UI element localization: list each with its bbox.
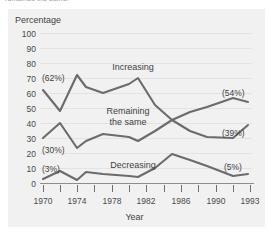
series-label-remaining-line1: Remaining (93, 106, 163, 116)
x-axis-line (40, 183, 254, 184)
x-axis-title: Year (0, 212, 269, 222)
x-tick-1986 (181, 185, 182, 192)
x-tick-1974 (77, 185, 78, 192)
annotation-3-percent: (3%) (42, 164, 60, 174)
x-label-1978: 1978 (103, 196, 122, 206)
x-tick-1970 (43, 185, 44, 192)
x-tick-1988 (198, 185, 199, 192)
annotation-39-percent: (39%) (222, 128, 245, 138)
x-tick-1992 (233, 185, 234, 192)
x-tick-1982 (146, 185, 147, 192)
x-tick-1978 (112, 185, 113, 192)
x-label-1970: 1970 (34, 196, 53, 206)
series-label-decreasing: Decreasing (98, 160, 168, 170)
chart-root: remained the same. Percentage 100 90 80 … (0, 0, 269, 235)
annotation-62-percent: (62%) (42, 73, 65, 83)
x-label-1990: 1990 (207, 196, 226, 206)
x-tick-1993 (250, 185, 251, 192)
series-label-increasing: Increasing (98, 62, 168, 72)
x-label-1993: 1993 (241, 196, 260, 206)
x-tick-1976 (94, 185, 95, 192)
x-label-1982: 1982 (137, 196, 156, 206)
x-label-1974: 1974 (68, 196, 87, 206)
annotation-5-percent: (5%) (224, 162, 242, 172)
x-label-1986: 1986 (172, 196, 191, 206)
annotation-30-percent: (30%) (42, 145, 65, 155)
x-tick-1990 (216, 185, 217, 192)
annotation-54-percent: (54%) (222, 88, 245, 98)
x-tick-1972 (60, 185, 61, 192)
x-tick-1980 (129, 185, 130, 192)
series-label-remaining-line2: the same (93, 117, 163, 127)
x-tick-1984 (164, 185, 165, 192)
